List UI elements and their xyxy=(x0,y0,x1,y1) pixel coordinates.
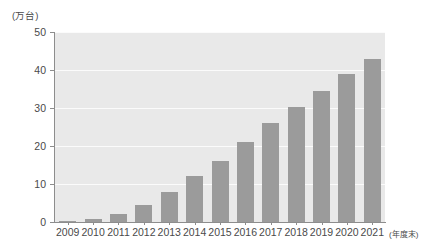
x-axis-label-2017: 2017 xyxy=(259,226,282,238)
y-tick-20 xyxy=(50,146,54,147)
bar-2012 xyxy=(135,205,152,222)
y-axis-label: 10 xyxy=(0,178,46,190)
y-tick-0 xyxy=(50,222,54,223)
x-axis-label-2021: 2021 xyxy=(361,226,384,238)
bar-2016 xyxy=(237,142,254,222)
x-axis-label-2012: 2012 xyxy=(132,226,155,238)
bar-2015 xyxy=(212,161,229,222)
x-tick-2018 xyxy=(296,222,297,225)
x-tick-2017 xyxy=(271,222,272,225)
x-tick-2011 xyxy=(118,222,119,225)
x-tick-2014 xyxy=(195,222,196,225)
x-axis-label-2010: 2010 xyxy=(81,226,104,238)
x-tick-2020 xyxy=(347,222,348,225)
y-axis-label: 50 xyxy=(0,26,46,38)
bar-2011 xyxy=(110,214,127,222)
x-tick-2013 xyxy=(169,222,170,225)
x-axis-label-2020: 2020 xyxy=(335,226,358,238)
bar-chart: (万台) 01020304050 20092010201120122013201… xyxy=(0,0,433,252)
x-axis-unit-label: (年度末) xyxy=(389,228,418,239)
x-axis-label-2018: 2018 xyxy=(284,226,307,238)
y-tick-50 xyxy=(50,32,54,33)
bar-2018 xyxy=(288,107,305,222)
x-axis-label-2016: 2016 xyxy=(234,226,257,238)
x-tick-2009 xyxy=(68,222,69,225)
y-axis-label: 20 xyxy=(0,140,46,152)
y-axis-unit-label: (万台) xyxy=(12,8,38,22)
x-tick-2019 xyxy=(322,222,323,225)
x-axis-label-2011: 2011 xyxy=(107,226,130,238)
x-axis-label-2009: 2009 xyxy=(56,226,79,238)
x-tick-2010 xyxy=(93,222,94,225)
x-axis-label-2015: 2015 xyxy=(208,226,231,238)
bar-2017 xyxy=(262,123,279,222)
bar-2021 xyxy=(364,59,381,222)
bar-2013 xyxy=(161,192,178,222)
y-tick-10 xyxy=(50,184,54,185)
bar-series xyxy=(55,32,385,222)
x-axis-label-2013: 2013 xyxy=(158,226,181,238)
y-tick-30 xyxy=(50,108,54,109)
x-tick-2016 xyxy=(245,222,246,225)
x-axis-label-2014: 2014 xyxy=(183,226,206,238)
bar-2020 xyxy=(338,74,355,222)
x-tick-2021 xyxy=(372,222,373,225)
y-tick-40 xyxy=(50,70,54,71)
x-axis-label-2019: 2019 xyxy=(310,226,333,238)
bar-2014 xyxy=(186,176,203,222)
x-axis-labels: 2009201020112012201320142015201620172018… xyxy=(55,226,385,244)
y-axis-label: 0 xyxy=(0,216,46,228)
y-axis-label: 40 xyxy=(0,64,46,76)
bar-2019 xyxy=(313,91,330,222)
y-axis-label: 30 xyxy=(0,102,46,114)
x-tick-2015 xyxy=(220,222,221,225)
x-tick-2012 xyxy=(144,222,145,225)
